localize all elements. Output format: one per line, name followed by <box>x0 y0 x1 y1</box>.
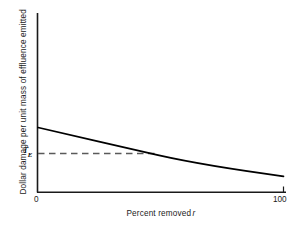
x-axis-label: Percent removedr <box>37 209 285 218</box>
threshold-label: TE <box>23 145 33 157</box>
plot-area <box>0 0 297 230</box>
x-axis-label-text: Percent removed <box>127 209 192 218</box>
y-axis-label: Dollar damage per unit mass of effluence… <box>19 15 28 195</box>
x-axis-symbol: r <box>191 209 195 218</box>
x-tick-label-0: 0 <box>34 195 39 204</box>
damage-curve <box>38 128 284 177</box>
x-tick-label-100: 100 <box>273 195 287 204</box>
threshold-subscript: E <box>28 151 33 158</box>
chart-figure: Dollar damage per unit mass of effluence… <box>0 0 297 230</box>
